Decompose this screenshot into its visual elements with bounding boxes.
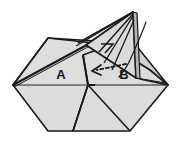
origami-diagram-figure: A B [0,0,182,141]
panel-label-b: B [119,67,128,82]
panel-label-a: A [56,67,66,82]
origami-illustration: A B [0,0,182,141]
